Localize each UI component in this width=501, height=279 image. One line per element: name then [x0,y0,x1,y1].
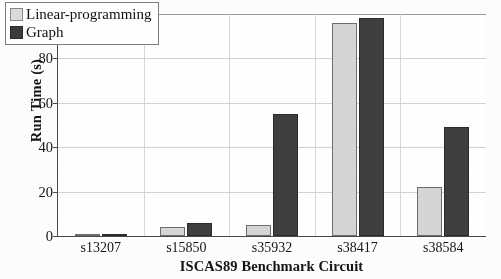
y-tick-mark [53,58,58,59]
bar [187,223,212,236]
legend-label: Linear-programming [26,7,152,22]
legend-item-graph: Graph [10,23,152,41]
x-tick-label: s35932 [252,240,292,256]
bar-group [160,14,212,236]
bar-group [75,14,127,236]
legend-item-linear-programming: Linear-programming [10,5,152,23]
bar [444,127,469,236]
bar [332,23,357,236]
chart-legend: Linear-programming Graph [5,2,159,45]
x-tick-label: s38584 [423,240,463,256]
x-tick-label: s13207 [81,240,121,256]
y-tick-label: 40 [39,139,54,156]
y-tick-mark [53,103,58,104]
dark-gray-swatch-icon [10,26,23,39]
bar [160,227,185,236]
y-tick-mark [53,236,58,237]
y-tick-label: 0 [46,228,53,245]
gridline-vertical [144,14,145,236]
y-tick-mark [53,147,58,148]
x-tick-label: s38417 [337,240,377,256]
bar-group [417,14,469,236]
bar [75,234,100,236]
gridline-vertical [315,14,316,236]
y-tick-label: 80 [39,50,54,67]
gridline-vertical [400,14,401,236]
bar-group [246,14,298,236]
bar-group [332,14,384,236]
x-tick-label: s15850 [166,240,206,256]
legend-label: Graph [26,25,64,40]
bar-chart-figure: Run Time (s) 020406080100 s13207s15850s3… [0,0,501,279]
y-tick-label: 60 [39,94,54,111]
plot-area: 020406080100 s13207s15850s35932s38417s38… [57,14,486,237]
bar [102,234,127,236]
bar [417,187,442,236]
y-tick-mark [53,192,58,193]
bar [359,18,384,236]
bar [273,114,298,236]
bar [246,225,271,236]
gridline-vertical [229,14,230,236]
light-gray-swatch-icon [10,8,23,21]
x-axis-title: ISCAS89 Benchmark Circuit [57,258,486,275]
y-tick-label: 20 [39,183,54,200]
